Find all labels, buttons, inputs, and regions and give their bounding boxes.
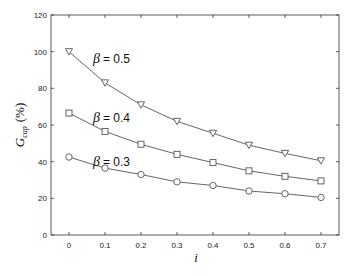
y-tick-label: 120 — [34, 11, 48, 20]
line-chart: 020406080100120 00.10.20.30.40.50.60.7 β… — [0, 0, 354, 276]
y-tick-label: 20 — [38, 194, 47, 203]
series-annotation: β= 0.4 — [92, 110, 130, 125]
data-point-marker — [210, 182, 216, 188]
x-tick-label: 0.3 — [171, 241, 183, 250]
data-point-marker — [138, 171, 144, 177]
y-tick-label: 100 — [34, 48, 48, 57]
data-point-marker — [246, 188, 252, 194]
data-point-marker — [246, 168, 252, 174]
data-point-marker — [318, 194, 324, 200]
data-point-marker — [318, 178, 324, 184]
data-point-marker — [66, 110, 72, 116]
x-tick-label: 0.1 — [99, 241, 111, 250]
series-annotation: β= 0.3 — [92, 154, 130, 169]
x-tick-label: 0.5 — [243, 241, 255, 250]
data-point-marker — [66, 154, 72, 160]
svg-text:Gcap(%): Gcap(%) — [12, 103, 29, 147]
x-tick-label: 0 — [67, 241, 72, 250]
y-tick-label: 40 — [38, 158, 47, 167]
x-tick-label: 0.6 — [279, 241, 291, 250]
data-point-marker — [282, 173, 288, 179]
x-axis-label: i — [194, 250, 198, 265]
y-tick-label: 60 — [38, 121, 47, 130]
y-tick-label: 0 — [43, 231, 48, 240]
series-annotation: β= 0.5 — [92, 51, 130, 66]
data-point-marker — [210, 160, 216, 166]
y-axis-label: Gcap(%) — [12, 103, 29, 147]
x-tick-label: 0.2 — [135, 241, 147, 250]
plot-area — [51, 15, 339, 235]
x-tick-label: 0.7 — [315, 241, 327, 250]
data-point-marker — [138, 141, 144, 147]
y-tick-label: 80 — [38, 84, 47, 93]
x-tick-label: 0.4 — [207, 241, 219, 250]
data-point-marker — [174, 151, 180, 157]
data-point-marker — [174, 179, 180, 185]
data-point-marker — [102, 128, 108, 134]
data-point-marker — [282, 191, 288, 197]
